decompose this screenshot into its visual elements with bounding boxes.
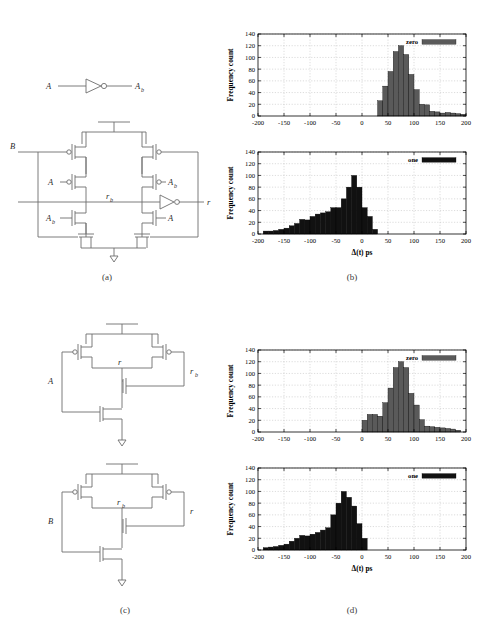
histogram-bar — [440, 113, 445, 116]
histogram-bar — [263, 231, 268, 234]
circuit-a-right-pmos-label: A — [167, 177, 174, 187]
circuit-diagram-c-top: A r r b — [38, 316, 220, 456]
chart-b-one: -200-150-100-500501001502000204060801001… — [224, 142, 474, 260]
circuit-c-bottom-rb-sub: b — [122, 503, 125, 509]
y-tick-label: 20 — [248, 101, 255, 108]
x-tick-label: 50 — [385, 237, 392, 244]
histogram-bar — [388, 388, 393, 432]
x-tick-label: -200 — [252, 119, 265, 126]
chart-d-zero: -200-150-100-500501001502000204060801001… — [224, 340, 474, 458]
y-tick-label: 60 — [248, 195, 255, 202]
x-tick-label: 50 — [385, 435, 392, 442]
y-tick-label: 80 — [248, 66, 255, 73]
histogram-bar — [341, 199, 346, 234]
histogram-bar — [362, 208, 367, 234]
x-tick-label: 0 — [360, 237, 364, 244]
histogram-bar — [320, 530, 325, 550]
x-tick-label: 200 — [461, 553, 472, 560]
histogram-bar — [388, 71, 393, 116]
x-tick-label: -200 — [252, 237, 265, 244]
legend-swatch — [422, 40, 456, 45]
histogram-bar — [331, 208, 336, 234]
histogram-bar — [383, 86, 388, 116]
histogram-bar — [414, 90, 419, 116]
y-axis-title: Frequency count — [226, 166, 235, 220]
histogram-bar — [398, 362, 403, 432]
y-tick-label: 40 — [248, 89, 255, 96]
histogram-b-one: -200-150-100-500501001502000204060801001… — [224, 142, 474, 260]
x-tick-label: 150 — [435, 237, 446, 244]
histogram-bar — [378, 101, 383, 116]
histogram-bar — [378, 416, 383, 432]
legend-label: zero — [406, 38, 419, 45]
histogram-bar — [352, 175, 357, 234]
legend-swatch — [422, 356, 456, 361]
x-tick-label: 50 — [385, 553, 392, 560]
histogram-bar — [372, 229, 377, 234]
histogram-bar — [279, 229, 284, 234]
legend-label: zero — [406, 354, 419, 361]
y-tick-label: 60 — [248, 511, 255, 518]
y-axis-title: Frequency count — [226, 364, 235, 418]
x-tick-label: -150 — [278, 119, 291, 126]
histogram-bar — [435, 427, 440, 432]
circuit-diagram-a: A A b B A A b r b A b A r — [8, 52, 220, 264]
histogram-bar — [284, 228, 289, 234]
caption-c: (c) — [113, 605, 137, 615]
histogram-bar — [331, 515, 336, 550]
histogram-bar — [445, 112, 450, 116]
histogram-bar — [346, 497, 351, 550]
histogram-bar — [305, 536, 310, 550]
histogram-bar — [362, 538, 367, 550]
legend-swatch — [422, 158, 456, 163]
y-tick-label: 80 — [248, 500, 255, 507]
x-tick-label: -150 — [278, 237, 291, 244]
circuit-a-ab-sub: b — [141, 87, 144, 93]
x-tick-label: 0 — [360, 435, 364, 442]
histogram-bar — [300, 219, 305, 234]
y-tick-label: 140 — [245, 346, 256, 353]
circuit-c-bottom-rb-label: r — [117, 497, 121, 507]
circuit-a-left-nmos-sub: b — [52, 219, 55, 225]
y-tick-label: 40 — [248, 405, 255, 412]
histogram-bar — [362, 420, 367, 432]
y-tick-label: 60 — [248, 77, 255, 84]
histogram-bar — [424, 105, 429, 116]
y-tick-label: 120 — [245, 358, 256, 365]
histogram-bar — [393, 368, 398, 432]
x-tick-label: -50 — [332, 553, 341, 560]
histogram-bar — [346, 187, 351, 234]
caption-b: (b) — [340, 272, 364, 282]
circuit-a-input-b-label: B — [10, 141, 15, 151]
histogram-bar — [274, 546, 279, 550]
y-tick-label: 140 — [245, 148, 256, 155]
histogram-bar — [279, 545, 284, 550]
x-tick-label: 100 — [409, 435, 420, 442]
histogram-bar — [435, 112, 440, 116]
y-tick-label: 140 — [245, 464, 256, 471]
x-tick-label: -200 — [252, 553, 265, 560]
x-tick-label: -50 — [332, 435, 341, 442]
y-axis-title: Frequency count — [226, 482, 235, 536]
x-tick-label: -50 — [332, 237, 341, 244]
y-tick-label: 120 — [245, 160, 256, 167]
x-tick-label: 100 — [409, 237, 420, 244]
x-tick-label: -100 — [304, 435, 317, 442]
histogram-bar — [424, 426, 429, 432]
x-tick-label: 150 — [435, 119, 446, 126]
histogram-b-zero: -200-150-100-500501001502000204060801001… — [224, 24, 474, 142]
histogram-bar — [404, 55, 409, 117]
x-tick-label: -150 — [278, 553, 291, 560]
y-tick-label: 80 — [248, 382, 255, 389]
histogram-bar — [404, 368, 409, 432]
histogram-bar — [289, 226, 294, 234]
histogram-bar — [430, 427, 435, 432]
histogram-bar — [450, 113, 455, 116]
histogram-bar — [310, 534, 315, 550]
x-tick-label: -50 — [332, 119, 341, 126]
histogram-bar — [320, 213, 325, 234]
histogram-bar — [268, 231, 273, 234]
legend-label: one — [408, 472, 418, 479]
histogram-bar — [289, 541, 294, 550]
circuit-a-left-nmos-label: A — [45, 213, 52, 223]
